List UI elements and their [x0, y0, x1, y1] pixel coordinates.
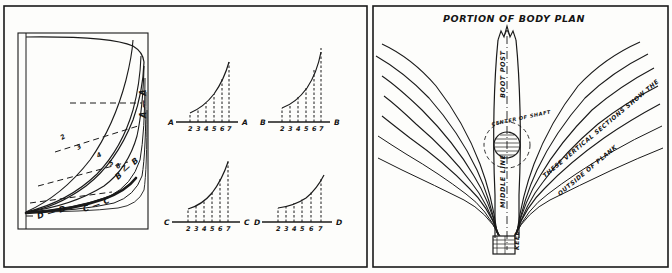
chart-b-tick-7: 7	[319, 125, 324, 133]
chart-b-tick-5: 5	[304, 125, 309, 133]
chart-c-tick-7: 7	[226, 225, 231, 233]
chart-d-tick-2: 2	[276, 225, 281, 233]
boot-post-label: BOOT POST	[499, 50, 507, 98]
chart-b-left-label: B	[260, 118, 266, 127]
chart-d-tick-4: 4	[292, 225, 297, 233]
chart-d-tick-6: 6	[309, 225, 314, 233]
chart-a-tick-2: 2	[188, 125, 193, 133]
chart-b-tick-3: 3	[288, 125, 293, 133]
chart-a-tick-7: 7	[227, 125, 232, 133]
chart-d-right-label: D	[336, 218, 343, 227]
technical-plate-drawing: 2 3 4 5 6 7 A — A B — B C — C D — D A A …	[0, 0, 672, 273]
chart-b-tick-4: 4	[296, 125, 301, 133]
chart-d-tick-5: 5	[300, 225, 305, 233]
chart-c-tick-2: 2	[186, 225, 191, 233]
middle-line-label: MIDDLE LINE	[499, 154, 507, 208]
chart-d-tick-3: 3	[284, 225, 289, 233]
chart-c-right-label: C	[244, 218, 250, 227]
chart-c-tick-3: 3	[194, 225, 199, 233]
chart-a-tick-3: 3	[196, 125, 201, 133]
chart-c-left-label: C	[164, 218, 170, 227]
chart-d-left-label: D	[254, 218, 261, 227]
plate-sheet: 2 3 4 5 6 7 A — A B — B C — C D — D A A …	[0, 0, 672, 273]
section-label-a-a: A — A	[139, 89, 148, 119]
chart-a-tick-4: 4	[204, 125, 209, 133]
chart-b-right-label: B	[334, 118, 340, 127]
chart-a-right-label: A	[241, 118, 248, 127]
chart-a-tick-5: 5	[212, 125, 217, 133]
chart-a-tick-6: 6	[220, 125, 225, 133]
chart-a-left-label: A	[167, 118, 174, 127]
paper-background	[0, 0, 672, 273]
chart-d-tick-7: 7	[318, 225, 323, 233]
chart-c-tick-5: 5	[210, 225, 215, 233]
chart-c-tick-6: 6	[218, 225, 223, 233]
body-plan-title: PORTION OF BODY PLAN	[443, 13, 585, 24]
keel-label: KEEL	[513, 231, 520, 250]
chart-b-tick-6: 6	[312, 125, 317, 133]
chart-c-tick-4: 4	[202, 225, 207, 233]
chart-b-tick-2: 2	[280, 125, 285, 133]
